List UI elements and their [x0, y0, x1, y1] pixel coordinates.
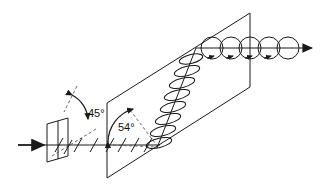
polarization-diagram-svg: 45° 54° [0, 0, 323, 192]
first-polarizer-plate [47, 118, 68, 162]
angle-45-label: 45° [88, 107, 105, 119]
angle-45-arc [72, 95, 88, 119]
angle-54-label: 54° [118, 121, 135, 133]
diagram-canvas: 45° 54° [0, 0, 323, 192]
